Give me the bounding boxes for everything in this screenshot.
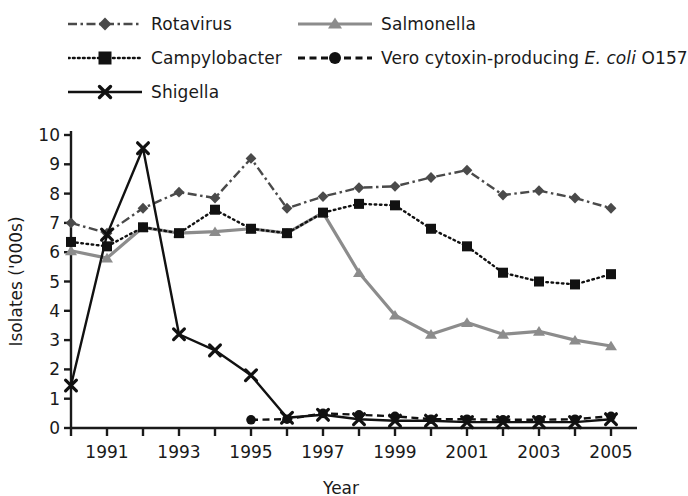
series-marker-0 [606,203,617,214]
y-axis-tick-label: 6 [49,242,60,262]
series-marker-1 [461,317,473,327]
series-marker-3 [246,415,256,425]
series-marker-2 [282,228,292,238]
legend-label-salmonella: Salmonella [381,14,476,34]
legend-item-campylobacter: Campylobacter [68,48,282,68]
legend-key-salmonella [298,14,372,34]
series-line-4 [71,148,611,422]
series-marker-2 [354,199,364,209]
y-axis-tick-label: 5 [49,272,60,292]
x-axis-tick-label: 2005 [589,442,632,462]
chart-plot-area: 0123456789101991199319951997199920012003… [0,96,651,496]
series-marker-2 [426,224,436,234]
series-marker-2 [246,224,256,234]
legend-label-vtec-prefix: Vero cytoxin-producing [381,48,585,68]
legend-label-vtec-species: E. coli [585,48,636,68]
series-marker-2 [462,241,472,251]
y-axis-title: Isolates ('000s) [6,216,26,346]
x-axis-tick-label: 1995 [229,442,272,462]
series-marker-2 [390,200,400,210]
series-marker-0 [426,172,437,183]
series-marker-0 [570,193,581,204]
legend-label-vtec-ecoli-o157: Vero cytoxin-producing E. coli O157 [381,48,688,68]
y-axis-tick-label: 4 [49,301,60,321]
x-axis-tick-label: 1991 [85,442,128,462]
y-axis-tick-label: 3 [49,330,60,350]
x-axis-tick-label: 1999 [373,442,416,462]
series-marker-0 [66,218,77,229]
legend-label-vtec-serotype: O157 [636,48,688,68]
series-marker-2 [174,228,184,238]
y-axis-tick-label: 9 [49,154,60,174]
y-axis-tick-label: 10 [38,125,60,145]
series-marker-2 [318,208,328,218]
series-marker-2 [66,237,76,247]
legend-key-campylobacter [68,48,142,68]
series-marker-0 [390,181,401,192]
series-marker-0 [354,182,365,193]
x-axis-tick-label: 2003 [517,442,560,462]
series-marker-2 [498,268,508,278]
series-marker-2 [210,205,220,215]
legend-item-vtec-ecoli-o157: Vero cytoxin-producing E. coli O157 [298,48,688,68]
x-axis-tick-label: 1997 [301,442,344,462]
legend-label-campylobacter: Campylobacter [151,48,282,68]
series-marker-4 [246,370,257,381]
series-marker-2 [606,269,616,279]
legend-key-rotavirus [68,14,142,34]
series-marker-0 [534,185,545,196]
series-marker-0 [174,187,185,198]
legend-key-vtec-ecoli-o157 [298,48,372,68]
x-axis-tick-label: 1993 [157,442,200,462]
series-marker-2 [138,222,148,232]
legend-item-salmonella: Salmonella [298,14,476,34]
series-marker-2 [534,277,544,287]
legend-label-rotavirus: Rotavirus [151,14,232,34]
y-axis-tick-label: 8 [49,184,60,204]
y-axis-tick-label: 2 [49,359,60,379]
series-marker-0 [462,165,473,176]
series-marker-2 [570,279,580,289]
chart-legend: Rotavirus Salmonella Campylobacter Vero … [0,0,651,100]
legend-item-rotavirus: Rotavirus [68,14,232,34]
x-axis-title: Year [322,478,359,496]
series-marker-1 [353,268,365,278]
series-marker-0 [318,191,329,202]
y-axis-tick-label: 7 [49,213,60,233]
x-axis-tick-label: 2001 [445,442,488,462]
y-axis-tick-label: 0 [49,418,60,438]
y-axis-tick-label: 1 [49,389,60,409]
series-marker-4 [210,345,221,356]
